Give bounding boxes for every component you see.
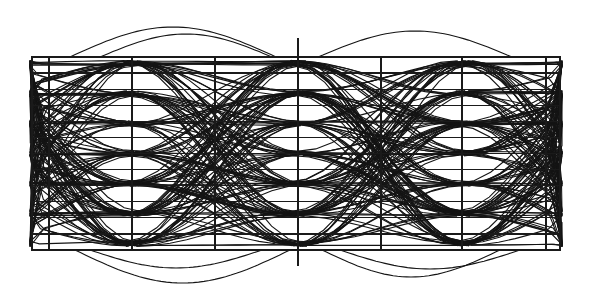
overshoot-arc — [318, 31, 512, 57]
eye-diagram — [0, 0, 591, 294]
signal-trace — [30, 123, 562, 214]
signal-trace — [30, 62, 562, 216]
signal-trace — [30, 62, 562, 216]
signal-trace — [30, 92, 562, 245]
signal-trace — [30, 62, 562, 215]
signal-trace — [30, 91, 562, 245]
signal-trace — [30, 93, 562, 184]
overshoot-arc — [100, 34, 272, 57]
signal-trace — [30, 61, 562, 217]
signal-trace — [30, 91, 562, 245]
signal-trace — [30, 66, 562, 215]
eye-diagram-plot — [0, 0, 591, 294]
signal-trace — [30, 61, 562, 217]
signal-trace — [30, 62, 562, 216]
overshoot-arc — [70, 27, 276, 57]
signal-trace — [30, 64, 562, 216]
signal-trace — [30, 61, 562, 211]
signal-trace — [30, 64, 562, 214]
signal-trace — [30, 65, 562, 212]
signal-trace — [30, 65, 562, 217]
signal-trace — [30, 94, 562, 186]
signal-trace — [30, 62, 562, 215]
overshoot-arc — [90, 250, 262, 268]
signal-trace — [30, 63, 562, 215]
signal-trace — [30, 91, 562, 245]
grid-lines — [32, 57, 560, 250]
signal-trace — [30, 91, 562, 243]
signal-trace — [30, 61, 562, 216]
signal-trace — [30, 64, 562, 214]
signal-trace — [30, 61, 562, 216]
signal-trace — [30, 66, 562, 216]
overshoot-arc — [75, 250, 290, 283]
signal-trace — [30, 91, 562, 243]
signal-trace — [30, 61, 562, 212]
signal-trace — [30, 91, 562, 245]
signal-trace — [30, 63, 562, 216]
signal-trace — [30, 93, 562, 245]
signal-trace — [30, 92, 562, 246]
signal-trace — [30, 93, 562, 244]
signal-trace — [30, 94, 562, 243]
signal-trace — [30, 62, 562, 216]
signal-trace — [30, 66, 562, 214]
signal-trace — [30, 63, 562, 215]
signal-trace — [30, 61, 562, 212]
signal-trace — [30, 62, 562, 214]
